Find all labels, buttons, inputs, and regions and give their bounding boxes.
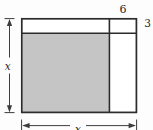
- top-segment-label: 6: [120, 3, 127, 16]
- figure-canvas: x x 6 3: [0, 0, 153, 130]
- geometry-figure: x x 6 3: [0, 0, 153, 130]
- shaded-region: [23, 34, 109, 113]
- bottom-dimension-label: x: [75, 123, 81, 130]
- right-segment-label: 3: [144, 17, 151, 29]
- left-dimension-label: x: [5, 60, 11, 72]
